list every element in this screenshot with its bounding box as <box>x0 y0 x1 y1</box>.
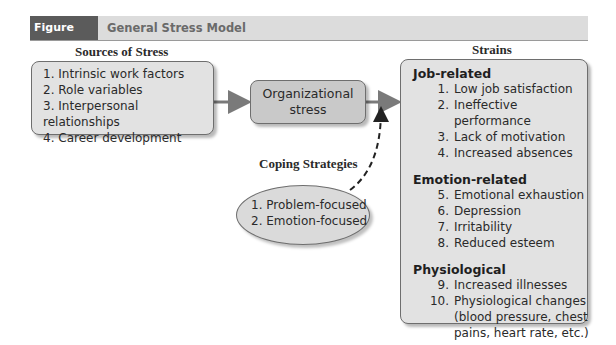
organizational-stress-box: Organizational stress <box>250 80 366 124</box>
job-related-list: 1.Low job satisfaction 2.Ineffective per… <box>413 81 587 161</box>
emotion-related-list: 5.Emotional exhaustion 6.Depression 7.Ir… <box>413 187 587 251</box>
list-item: 4.Increased absences <box>429 145 587 161</box>
list-item: 2.Ineffective performance <box>429 97 587 129</box>
sources-list: 1. Intrinsic work factors 2. Role variab… <box>43 66 213 146</box>
list-item: 2. Role variables <box>43 82 213 98</box>
list-item: 3.Lack of motivation <box>429 129 587 145</box>
sources-box: 1. Intrinsic work factors 2. Role variab… <box>31 61 214 135</box>
sources-heading: Sources of Stress <box>75 44 168 60</box>
list-item: 1. Problem-focused <box>251 197 369 213</box>
physiological-list: 9.Increased illnesses 10.Physiological c… <box>413 277 587 341</box>
list-item: 10.Physiological changes (blood pressure… <box>429 293 589 341</box>
list-item: 7.Irritability <box>429 219 587 235</box>
list-item: 6.Depression <box>429 203 587 219</box>
list-item: 1. Intrinsic work factors <box>43 66 213 82</box>
list-item: 2. Emotion-focused <box>251 213 369 229</box>
list-item: 4. Career development <box>43 130 213 146</box>
list-item: 1.Low job satisfaction <box>429 81 587 97</box>
coping-list: 1. Problem-focused 2. Emotion-focused <box>251 197 369 229</box>
list-item: 5.Emotional exhaustion <box>429 187 587 203</box>
coping-heading: Coping Strategies <box>259 156 358 172</box>
list-item: 3. Interpersonal relationships <box>43 98 213 130</box>
category-title: Job-related <box>413 66 587 81</box>
list-item: 8.Reduced esteem <box>429 235 587 251</box>
strains-box: Job-related 1.Low job satisfaction 2.Ine… <box>400 59 588 324</box>
category-title: Physiological <box>413 262 587 277</box>
list-item: 9.Increased illnesses <box>429 277 587 293</box>
coping-ellipse: 1. Problem-focused 2. Emotion-focused <box>236 185 370 245</box>
strains-heading: Strains <box>472 42 512 58</box>
category-title: Emotion-related <box>413 172 587 187</box>
